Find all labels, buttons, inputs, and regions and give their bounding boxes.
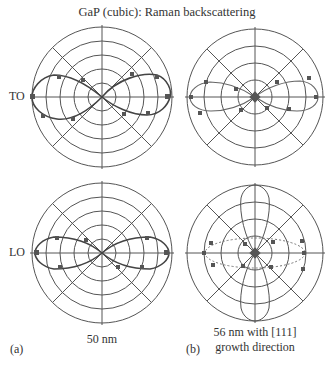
polar-plot-a-lo — [30, 181, 174, 325]
caption-b-line1: 56 nm with [111] — [200, 325, 310, 340]
polar-plots — [0, 0, 334, 368]
panel-letter-a: (a) — [10, 342, 23, 357]
polar-plot-a-to — [30, 25, 174, 169]
polar-plot-b-to — [185, 27, 325, 167]
caption-b-line2: growth direction — [200, 340, 310, 355]
polar-plot-b-lo — [185, 183, 325, 323]
panel-letter-b: (b) — [186, 342, 200, 357]
caption-a: 50 nm — [62, 332, 142, 347]
